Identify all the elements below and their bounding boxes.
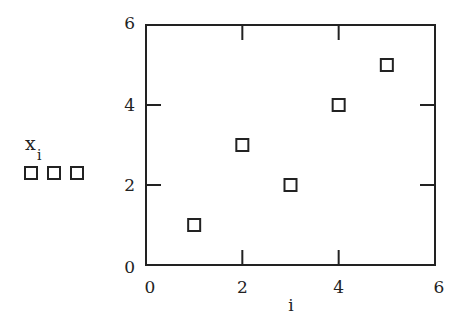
x-tick-label: 2 <box>237 277 248 297</box>
tick-labels: 02460246 <box>124 13 444 297</box>
legend-marker <box>48 167 60 179</box>
y-axis-legend: x i <box>25 132 83 179</box>
x-axis-title: i <box>288 295 294 315</box>
y-tick-label: 4 <box>124 95 135 115</box>
data-point <box>333 99 345 111</box>
legend-markers <box>25 167 83 179</box>
scatter-chart: 02460246 i x i <box>0 0 462 324</box>
plot-frame <box>146 25 435 265</box>
data-point <box>236 139 248 151</box>
x-tick-label: 6 <box>434 277 445 297</box>
y-tick-label: 6 <box>124 13 135 33</box>
legend-marker <box>71 167 83 179</box>
data-points <box>188 59 393 231</box>
x-tick-label: 0 <box>145 277 156 297</box>
y-tick-label: 0 <box>124 257 135 277</box>
data-point <box>188 219 200 231</box>
axis-ticks <box>146 25 435 265</box>
data-point <box>381 59 393 71</box>
y-tick-label: 2 <box>124 175 135 195</box>
x-tick-label: 4 <box>333 277 344 297</box>
data-point <box>285 179 297 191</box>
y-axis-title: x <box>25 132 36 154</box>
legend-marker <box>25 167 37 179</box>
y-axis-title-subscript: i <box>37 147 42 163</box>
